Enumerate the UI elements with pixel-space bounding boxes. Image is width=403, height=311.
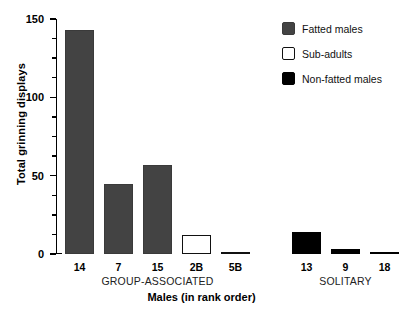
bar-14 <box>65 30 94 254</box>
y-axis-title: Total grinning displays <box>15 29 27 219</box>
x-label-18: 18 <box>370 261 399 273</box>
group-label-0: GROUP-ASSOCIATED <box>68 275 248 287</box>
bar-7 <box>104 184 133 255</box>
legend-item-0: Fatted males <box>282 16 382 41</box>
x-axis-title: Males (in rank order) <box>0 291 403 303</box>
y-tick-label: 100 <box>26 91 47 103</box>
legend-label: Fatted males <box>302 23 363 35</box>
bar-2B <box>182 235 211 254</box>
legend-item-2: Non-fatted males <box>282 66 382 91</box>
x-label-9: 9 <box>331 261 360 273</box>
bar-13 <box>292 232 321 254</box>
x-label-2B: 2B <box>182 261 211 273</box>
x-label-5B: 5B <box>221 261 250 273</box>
x-label-14: 14 <box>65 261 94 273</box>
x-label-7: 7 <box>104 261 133 273</box>
legend-swatch-icon <box>282 72 295 85</box>
y-tick-label: 150 <box>26 13 47 25</box>
group-label-1: SOLITARY <box>256 275 403 287</box>
legend-swatch-icon <box>282 22 295 35</box>
legend: Fatted malesSub-adultsNon-fatted males <box>282 16 382 91</box>
bar-chart: Total grinning displays 050100150 147152… <box>0 0 403 311</box>
x-label-15: 15 <box>143 261 172 273</box>
legend-label: Non-fatted males <box>302 73 382 85</box>
legend-item-1: Sub-adults <box>282 41 382 66</box>
bar-18 <box>370 252 399 254</box>
legend-label: Sub-adults <box>302 48 352 60</box>
y-tick-label: 0 <box>38 248 47 260</box>
legend-swatch-icon <box>282 47 295 60</box>
bar-5B <box>221 252 250 254</box>
bar-15 <box>143 165 172 254</box>
bar-9 <box>331 249 360 254</box>
y-tick-label: 50 <box>32 170 47 182</box>
x-label-13: 13 <box>292 261 321 273</box>
